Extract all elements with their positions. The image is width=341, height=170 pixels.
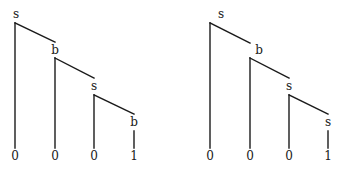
node-label: s <box>286 79 292 93</box>
right-tree: s b s s 0 0 0 1 <box>206 7 332 163</box>
branch-line <box>289 95 328 114</box>
node-label: s <box>13 7 19 21</box>
branch-line <box>94 95 134 114</box>
leaf-label: 0 <box>11 149 19 163</box>
branch-line <box>55 58 94 78</box>
branch-line <box>15 23 55 42</box>
node-label: s <box>91 79 97 93</box>
node-label: b <box>255 43 263 57</box>
tree-diagram: s b s b 0 0 0 1 s b s s 0 0 0 1 <box>0 0 341 170</box>
leaf-label: 0 <box>285 149 293 163</box>
branch-line <box>250 58 289 78</box>
leaf-label: 0 <box>51 149 59 163</box>
branch-line <box>210 23 250 43</box>
leaf-label: 1 <box>324 149 332 163</box>
node-label: b <box>51 43 59 57</box>
leaf-label: 0 <box>206 149 214 163</box>
node-label: b <box>130 115 138 129</box>
node-label: s <box>325 115 331 129</box>
leaf-label: 0 <box>90 149 98 163</box>
leaf-label: 0 <box>246 149 254 163</box>
node-label: s <box>218 7 224 21</box>
leaf-label: 1 <box>130 149 138 163</box>
left-tree: s b s b 0 0 0 1 <box>11 7 138 163</box>
